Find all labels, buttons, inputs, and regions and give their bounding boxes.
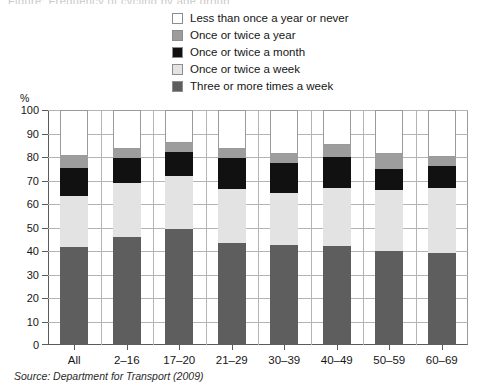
swatch-three-or-more-times-a-week: [172, 81, 183, 92]
x-axis-tick: [337, 345, 338, 350]
legend-item-label: Three or more times a week: [190, 81, 333, 93]
stacked-bar: [60, 110, 88, 345]
y-axis-tick: [42, 110, 48, 111]
x-gridline: [153, 110, 154, 345]
bar-segment: [60, 156, 88, 168]
y-axis-tick: [42, 157, 48, 158]
x-gridline: [363, 110, 364, 345]
y-axis-tick-label: 90: [27, 128, 39, 140]
bar-segment: [270, 193, 298, 245]
x-axis-tick-label: 60–69: [426, 354, 458, 366]
x-axis-tick: [389, 345, 390, 350]
x-axis-tick-label: 2–16: [114, 354, 140, 366]
bar-segment: [60, 247, 88, 345]
bar-segment: [113, 237, 141, 345]
bar-segment: [113, 183, 141, 237]
y-axis-tick: [42, 204, 48, 205]
bar-segment: [113, 149, 141, 158]
bar-segment: [165, 152, 193, 176]
bar-segment: [165, 229, 193, 345]
bar-segment: [428, 188, 456, 254]
bar-segment: [375, 154, 403, 169]
swatch-once-or-twice-a-week: [172, 64, 183, 75]
swatch-once-or-twice-a-year: [172, 30, 183, 41]
source-note: Source: Department for Transport (2009): [14, 370, 203, 382]
stacked-bar: [165, 110, 193, 345]
stacked-bar: [113, 110, 141, 345]
bar-segment: [270, 154, 298, 163]
x-axis-tick: [127, 345, 128, 350]
stacked-bar: [218, 110, 246, 345]
y-axis-tick-label: 60: [27, 198, 39, 210]
y-axis-tick: [42, 298, 48, 299]
bar-segment: [323, 110, 351, 145]
x-gridline: [416, 110, 417, 345]
x-axis-tick: [179, 345, 180, 350]
y-axis-tick-label: 80: [27, 151, 39, 163]
legend-item: Three or more times a week: [172, 78, 349, 95]
bar-segment: [428, 166, 456, 187]
x-axis-tick-label: 40–49: [321, 354, 353, 366]
y-axis-tick-label: 30: [27, 269, 39, 281]
y-axis-tick-label: 50: [27, 222, 39, 234]
swatch-once-or-twice-a-month: [172, 47, 183, 58]
chart-page: Figure: Frequency of cycling by age grou…: [0, 0, 490, 392]
legend-item: Once or twice a year: [172, 27, 349, 44]
legend-item-label: Less than once a year or never: [190, 13, 349, 25]
y-axis-tick-label: 40: [27, 245, 39, 257]
bar-segment: [270, 110, 298, 153]
legend-item-label: Once or twice a week: [190, 64, 300, 76]
bar-segment: [218, 189, 246, 243]
x-gridline: [258, 110, 259, 345]
stacked-bar: [323, 110, 351, 345]
x-axis-tick: [442, 345, 443, 350]
legend-item-label: Once or twice a year: [190, 30, 295, 42]
stacked-bar: [270, 110, 298, 345]
bar-segment: [60, 110, 88, 156]
bar-segment: [218, 158, 246, 189]
y-axis-tick: [42, 344, 48, 345]
bar-segment: [165, 110, 193, 143]
x-axis-tick-label: 21–29: [216, 354, 248, 366]
y-axis-tick: [42, 134, 48, 135]
y-axis-tick: [42, 322, 48, 323]
x-axis-tick-label: All: [68, 354, 81, 366]
x-gridline: [101, 110, 102, 345]
x-axis-tick: [284, 345, 285, 350]
y-axis-tick-label: 20: [27, 292, 39, 304]
bar-segment: [113, 110, 141, 149]
plot-area: 1009080706050403020100All2–1617–2021–293…: [48, 110, 468, 345]
y-axis-tick: [42, 251, 48, 252]
legend-item: Less than once a year or never: [172, 10, 349, 27]
bar-segment: [375, 110, 403, 153]
bar-segment: [113, 158, 141, 183]
y-axis-tick-label: 0: [33, 339, 39, 351]
bar-segment: [428, 110, 456, 157]
bar-segment: [323, 188, 351, 247]
stacked-bar: [428, 110, 456, 345]
bar-segment: [375, 190, 403, 251]
stacked-bar: [375, 110, 403, 345]
y-axis-unit-label: %: [20, 92, 29, 104]
bar-segment: [218, 243, 246, 345]
x-axis-tick-label: 50–59: [373, 354, 405, 366]
legend-item-label: Once or twice a month: [190, 47, 305, 59]
bar-segment: [218, 149, 246, 158]
x-gridline: [206, 110, 207, 345]
swatch-less-than-once-a-year-or-never: [172, 13, 183, 24]
bar-segment: [270, 245, 298, 345]
bar-segment: [165, 176, 193, 229]
bar-segment: [60, 196, 88, 248]
bar-segment: [165, 143, 193, 152]
chart-legend: Less than once a year or neverOnce or tw…: [172, 10, 349, 95]
x-axis-tick-label: 17–20: [163, 354, 195, 366]
legend-item: Once or twice a month: [172, 44, 349, 61]
bar-segment: [60, 168, 88, 196]
cropped-title-remnant: Figure: Frequency of cycling by age grou…: [8, 0, 368, 4]
bar-segment: [270, 163, 298, 194]
legend-item: Once or twice a week: [172, 61, 349, 78]
y-axis-tick: [42, 275, 48, 276]
y-axis-tick-label: 100: [21, 104, 39, 116]
y-axis-tick: [42, 228, 48, 229]
bar-segment: [428, 157, 456, 166]
